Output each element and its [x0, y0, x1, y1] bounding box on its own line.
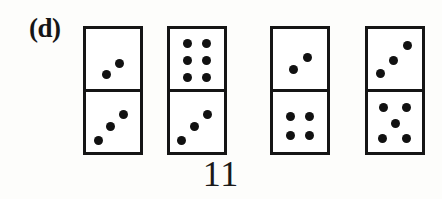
pip-dot	[203, 110, 212, 119]
pip-dot	[183, 39, 192, 48]
domino-tile-2	[167, 26, 227, 155]
pip-dot	[202, 73, 211, 82]
pip-dot	[391, 119, 400, 128]
panel-label: (d)	[29, 15, 61, 42]
pip-dot	[305, 112, 314, 121]
domino-tile-1	[83, 26, 143, 155]
domino-2-bottom-half	[170, 92, 224, 152]
pip-dot	[376, 69, 385, 78]
domino-3-bottom-half	[273, 92, 327, 152]
pip-dot	[289, 65, 298, 74]
pip-dot	[106, 122, 115, 131]
domino-1-top-half	[86, 29, 140, 92]
pip-dot	[119, 110, 128, 119]
domino-tile-3	[270, 26, 330, 155]
pip-dot	[303, 53, 312, 62]
pip-dot	[177, 136, 186, 145]
pip-dot	[305, 131, 314, 140]
domino-figure: (d) 11	[0, 0, 442, 199]
domino-4-top-half	[368, 29, 422, 92]
pip-dot	[183, 73, 192, 82]
pip-dot	[102, 70, 111, 79]
domino-2-top-half	[170, 29, 224, 92]
pip-dot	[94, 136, 103, 145]
pip-dot	[190, 122, 199, 131]
total-label: 11	[0, 156, 442, 194]
pip-dot	[202, 39, 211, 48]
pip-dot	[402, 103, 411, 112]
pip-dot	[202, 56, 211, 65]
domino-3-top-half	[273, 29, 327, 92]
pip-dot	[115, 59, 124, 68]
pip-dot	[286, 112, 295, 121]
pip-dot	[402, 134, 411, 143]
pip-dot	[379, 103, 388, 112]
pip-dot	[378, 134, 387, 143]
pip-dot	[389, 56, 398, 65]
pip-dot	[286, 131, 295, 140]
pip-dot	[403, 41, 412, 50]
domino-tile-4	[365, 26, 425, 155]
domino-1-bottom-half	[86, 92, 140, 152]
pip-dot	[183, 56, 192, 65]
domino-4-bottom-half	[368, 92, 422, 152]
